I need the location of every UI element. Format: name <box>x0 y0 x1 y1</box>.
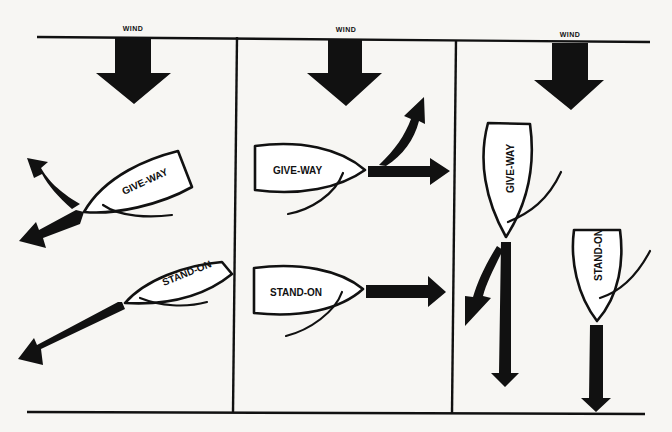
panel-divider-1 <box>233 37 237 412</box>
wind-arrow-icon <box>307 40 382 106</box>
give-way-boat: GIVE-WAY <box>84 151 192 216</box>
wind-arrow-icon <box>96 38 171 104</box>
stand-on-boat: STAND-ON <box>254 266 363 336</box>
straight-course-arrow-icon <box>366 276 446 307</box>
bottom-border <box>27 412 645 414</box>
stand-on-boat: STAND-ON <box>125 258 232 305</box>
panel-divider-2 <box>452 40 456 413</box>
sailing-right-of-way-diagram: WIND GIVE-WAY STAND-ON WIND GIVE-WAY <box>0 0 672 432</box>
panel-1: WIND GIVE-WAY STAND-ON <box>18 25 232 365</box>
straight-course-arrow-icon <box>581 325 611 412</box>
curved-course-arrow-icon <box>379 97 425 166</box>
straight-course-arrow-icon <box>368 158 450 185</box>
curved-course-arrow-icon <box>465 246 503 326</box>
wind-label: WIND <box>560 31 581 38</box>
wind-arrow-icon <box>534 43 604 110</box>
boat-label: GIVE-WAY <box>273 165 322 176</box>
boat-label: STAND-ON <box>593 229 604 281</box>
stand-on-boat: STAND-ON <box>573 229 650 321</box>
boat-label: STAND-ON <box>270 287 322 298</box>
boat-label: GIVE-WAY <box>505 144 516 193</box>
straight-course-arrow-icon <box>18 302 125 365</box>
wind-label: WIND <box>123 25 144 32</box>
panel-3: WIND GIVE-WAY STAND-ON <box>465 31 650 412</box>
panel-2: WIND GIVE-WAY STAND-ON <box>254 26 450 336</box>
hull-icon <box>125 262 232 303</box>
straight-course-arrow-icon <box>19 210 84 248</box>
curved-course-arrow-icon <box>27 158 80 209</box>
give-way-boat: GIVE-WAY <box>484 123 561 237</box>
give-way-boat: GIVE-WAY <box>255 144 365 214</box>
wind-label: WIND <box>336 26 357 33</box>
